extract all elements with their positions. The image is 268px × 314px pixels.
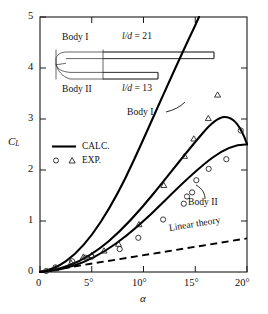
- inset-body-i-ratio-symbol: l/d: [122, 30, 132, 41]
- callout-body-i: Body I: [127, 106, 153, 117]
- legend-exp-label: EXP.: [82, 155, 101, 165]
- x-tick-label-15: 15°: [184, 277, 199, 288]
- inset-body-ii-ratio-symbol: l/d: [122, 82, 132, 93]
- x-axis-ticks-top: [92, 17, 196, 23]
- y-tick-label-0: 0: [28, 265, 33, 276]
- curve-body-ii-main: [40, 144, 247, 272]
- x-tick-label-10: 10°: [132, 277, 147, 288]
- callout-body-ii: Body II: [188, 196, 218, 207]
- inset-body-ii-label: Body II: [62, 83, 92, 94]
- inset-body-i-label: Body I: [62, 31, 88, 42]
- legend-calc-label: CALC.: [82, 141, 110, 151]
- inset-body-i-ratio-value: = 21: [135, 30, 152, 41]
- y-axis-label-sub: L: [15, 139, 19, 148]
- scatter-body-i: [53, 92, 221, 271]
- inset-body-ii-ratio: l/d = 13: [122, 82, 152, 93]
- inset-body-ii-ratio-value: = 13: [135, 82, 152, 93]
- x-tick-label-5: 5°: [84, 277, 93, 288]
- y-axis-ticks: [40, 17, 46, 272]
- chart-canvas: [0, 0, 268, 314]
- x-tick-label-20: 20°: [235, 277, 250, 288]
- x-tick-label-0: 0: [36, 277, 41, 288]
- legend-exp-swatch: [54, 158, 76, 163]
- y-tick-label-5: 5: [28, 10, 33, 21]
- leader-body-i: [166, 102, 185, 112]
- y-tick-label-2: 2: [28, 163, 33, 174]
- y-tick-label-4: 4: [28, 61, 33, 72]
- y-tick-label-1: 1: [28, 214, 33, 225]
- curve-body-i: [40, 17, 199, 272]
- x-axis-label: α: [140, 292, 146, 304]
- inset-body-diagram: [56, 50, 214, 80]
- y-tick-label-3: 3: [28, 112, 33, 123]
- inset-body-i-ratio: l/d = 21: [122, 30, 152, 41]
- axis-frame: [40, 17, 247, 272]
- figure-container: 5 4 3 2 1 0 CL 0 5° 10° 15° 20° α Body I…: [0, 0, 268, 314]
- y-axis-label: CL: [8, 131, 20, 149]
